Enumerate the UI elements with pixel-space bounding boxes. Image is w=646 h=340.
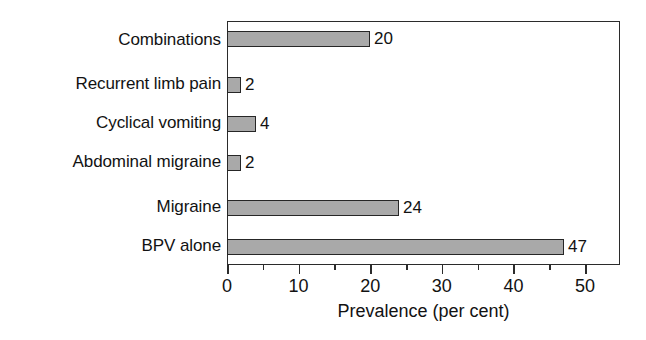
bar-cyclical-vomiting — [227, 116, 256, 132]
bar-combinations — [227, 31, 370, 47]
x-tick-30 — [442, 265, 444, 274]
y-axis-label-combinations: Combinations — [0, 31, 221, 48]
y-axis-label-cyclical-vomiting: Cyclical vomiting — [0, 114, 221, 131]
x-tick-0 — [227, 265, 229, 274]
bar-value-bpv-alone: 47 — [568, 239, 587, 255]
x-axis-ticks — [227, 265, 620, 275]
x-tick-35 — [478, 265, 480, 270]
x-ticklabel-40: 40 — [503, 276, 523, 296]
bar-value-cyclical-vomiting: 4 — [260, 116, 269, 132]
x-axis-title: Prevalence (per cent) — [227, 300, 620, 322]
x-tick-15 — [334, 265, 336, 270]
bar-value-migraine: 24 — [403, 200, 422, 216]
bar-abdominal-migraine — [227, 155, 241, 171]
bar-bpv-alone — [227, 239, 564, 255]
x-tick-45 — [549, 265, 551, 270]
x-tick-50 — [585, 265, 587, 274]
bar-migraine — [227, 200, 399, 216]
x-tick-40 — [513, 265, 515, 274]
bar-value-abdominal-migraine: 2 — [245, 155, 254, 171]
bar-value-recurrent-limb-pain: 2 — [245, 77, 254, 93]
x-ticklabel-20: 20 — [360, 276, 380, 296]
x-tick-25 — [406, 265, 408, 270]
bar-recurrent-limb-pain — [227, 77, 241, 93]
x-ticklabel-50: 50 — [575, 276, 595, 296]
bars-layer: 20 2 4 2 24 47 — [227, 21, 620, 265]
x-tick-5 — [263, 265, 265, 270]
x-tick-10 — [299, 265, 301, 274]
x-tick-20 — [370, 265, 372, 274]
y-axis-label-abdominal-migraine: Abdominal migraine — [0, 153, 221, 170]
y-axis-label-bpv-alone: BPV alone — [0, 237, 221, 254]
x-axis-tick-labels: 0 10 20 30 40 50 — [227, 276, 620, 298]
y-axis-label-migraine: Migraine — [0, 198, 221, 215]
x-ticklabel-0: 0 — [222, 276, 232, 296]
y-axis-label-recurrent-limb-pain: Recurrent limb pain — [0, 75, 221, 92]
y-axis-category-labels: Combinations Recurrent limb pain Cyclica… — [0, 0, 221, 265]
bar-value-combinations: 20 — [374, 31, 393, 47]
x-ticklabel-10: 10 — [289, 276, 309, 296]
bar-chart: Combinations Recurrent limb pain Cyclica… — [0, 0, 646, 340]
x-ticklabel-30: 30 — [432, 276, 452, 296]
